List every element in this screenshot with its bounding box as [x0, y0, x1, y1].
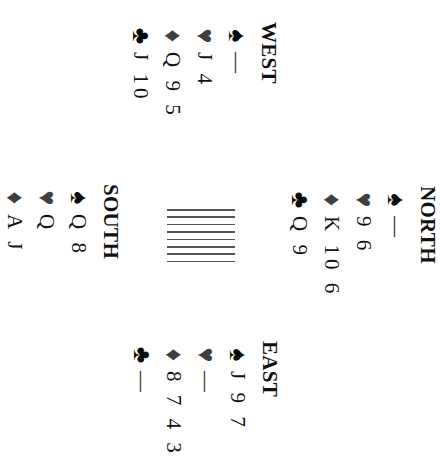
cards-clubs: J 10 — [125, 52, 157, 102]
seat-label-south: SOUTH — [95, 184, 127, 259]
cards-hearts: 9 6 — [348, 216, 380, 254]
suit-row-hearts: ♥ 9 6 — [348, 186, 380, 297]
diamond-icon: ♦ — [158, 341, 190, 369]
suit-row-diamonds: ♦ K 10 6 — [316, 186, 348, 297]
suit-row-clubs: ♣ J 10 — [125, 22, 157, 119]
heart-icon: ♥ — [189, 22, 221, 50]
cards-hearts: Q — [31, 214, 63, 233]
cards-diamonds: K 10 6 — [316, 216, 348, 297]
heart-icon: ♥ — [190, 341, 222, 369]
table-line — [167, 231, 235, 233]
suit-row-hearts: ♥ — — [190, 341, 222, 456]
diamond-icon: ♦ — [316, 186, 348, 214]
cards-spades: Q 8 — [63, 214, 95, 257]
cards-clubs: Q 9 — [284, 216, 316, 259]
spade-icon: ♠ — [63, 184, 95, 212]
diamond-icon: ♦ — [157, 22, 189, 50]
club-icon: ♣ — [284, 186, 316, 214]
suit-row-clubs: ♣ — — [126, 341, 158, 456]
spade-icon: ♠ — [222, 341, 254, 369]
suit-row-diamonds: ♦ A J — [0, 184, 31, 259]
cards-hearts: — — [190, 371, 222, 396]
seat-label-east: EAST — [254, 341, 286, 456]
suit-row-spades: ♠ J 9 7 — [222, 341, 254, 456]
suit-row-spades: ♠ — — [221, 22, 253, 119]
cards-spades: — — [221, 52, 253, 77]
cards-spades: J 9 7 — [222, 371, 254, 431]
club-icon: ♣ — [126, 341, 158, 369]
table-line — [167, 253, 235, 255]
table-icon — [167, 209, 235, 268]
suit-row-diamonds: ♦ Q 9 5 — [157, 22, 189, 119]
table-line — [167, 209, 235, 211]
cards-diamonds: 8 7 4 3 — [158, 371, 190, 456]
cards-diamonds: A J — [0, 214, 31, 253]
club-icon: ♣ — [125, 22, 157, 50]
cards-spades: — — [380, 216, 412, 241]
table-line — [167, 261, 235, 263]
heart-icon: ♥ — [31, 184, 63, 212]
suit-row-diamonds: ♦ 8 7 4 3 — [158, 341, 190, 456]
table-line — [167, 246, 235, 248]
spade-icon: ♠ — [380, 186, 412, 214]
spade-icon: ♠ — [221, 22, 253, 50]
seat-label-west: WEST — [253, 22, 285, 119]
seat-label-north: NORTH — [412, 186, 443, 297]
suit-row-spades: ♠ Q 8 — [63, 184, 95, 259]
heart-icon: ♥ — [348, 186, 380, 214]
hand-south: SOUTH ♠ Q 8 ♥ Q ♦ A J — [0, 184, 127, 259]
cards-diamonds: Q 9 5 — [157, 52, 189, 119]
hand-west: WEST ♠ — ♥ J 4 ♦ Q 9 5 ♣ J 10 — [125, 22, 285, 119]
hand-north: NORTH ♠ — ♥ 9 6 ♦ K 10 6 ♣ Q 9 — [284, 186, 443, 297]
hand-east: EAST ♠ J 9 7 ♥ — ♦ 8 7 4 3 ♣ — — [126, 341, 286, 456]
table-line — [167, 216, 235, 218]
suit-row-hearts: ♥ J 4 — [189, 22, 221, 119]
suit-row-spades: ♠ — — [380, 186, 412, 297]
cards-clubs: — — [126, 371, 158, 396]
table-line — [167, 224, 235, 226]
suit-row-hearts: ♥ Q — [31, 184, 63, 259]
diamond-icon: ♦ — [0, 184, 31, 212]
suit-row-clubs: ♣ Q 9 — [284, 186, 316, 297]
table-line — [167, 239, 235, 241]
cards-hearts: J 4 — [189, 52, 221, 88]
